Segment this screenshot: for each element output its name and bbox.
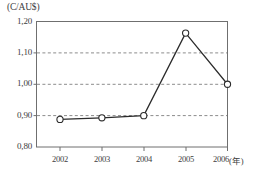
data-point-2006 bbox=[224, 81, 230, 87]
x-tick-label-2004: 2004 bbox=[122, 154, 166, 164]
data-point-2005 bbox=[183, 30, 189, 36]
x-tick-label-2002: 2002 bbox=[38, 154, 82, 164]
x-tick-label-2003: 2003 bbox=[80, 154, 124, 164]
chart-figure: (C/AU$) 1,20 1, bbox=[0, 0, 253, 174]
y-tick-label-0-80: 0,80 bbox=[2, 141, 32, 151]
data-point-2003 bbox=[99, 115, 105, 121]
x-axis-ticks bbox=[60, 147, 228, 151]
data-point-2004 bbox=[141, 113, 147, 119]
data-point-2002 bbox=[57, 116, 63, 122]
y-tick-label-1-00: 1,00 bbox=[2, 78, 32, 88]
y-tick-label-0-90: 0,90 bbox=[2, 110, 32, 120]
line-chart-plot bbox=[0, 0, 253, 174]
x-axis-unit-label: (年) bbox=[229, 154, 244, 166]
y-tick-label-1-10: 1,10 bbox=[2, 47, 32, 57]
y-tick-label-1-20: 1,20 bbox=[2, 16, 32, 26]
